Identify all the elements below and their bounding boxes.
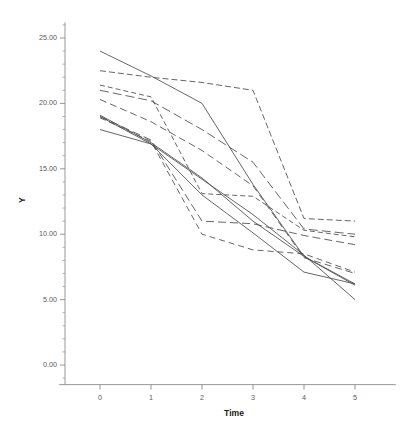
series-line-subject-5 bbox=[100, 99, 355, 273]
y-axis-title: Y bbox=[17, 197, 27, 203]
series-line-subject-4 bbox=[100, 90, 355, 234]
y-tick-label: 25.00 bbox=[39, 33, 57, 42]
x-tick-label: 5 bbox=[353, 393, 357, 402]
y-tick-label: 5.00 bbox=[43, 295, 57, 304]
spaghetti-plot-svg: 0.005.0010.0015.0020.0025.00012345 Time … bbox=[0, 0, 414, 433]
x-axis-title: Time bbox=[224, 408, 244, 418]
x-tick-label: 0 bbox=[98, 393, 102, 402]
axes-group bbox=[59, 22, 396, 384]
data-series-group bbox=[100, 51, 355, 300]
y-tick-label: 0.00 bbox=[43, 360, 57, 369]
x-tick-label: 2 bbox=[200, 393, 204, 402]
x-tick-label: 4 bbox=[302, 393, 306, 402]
series-line-subject-10 bbox=[100, 130, 355, 300]
y-tick-label: 15.00 bbox=[39, 164, 57, 173]
x-tick-label: 1 bbox=[149, 393, 153, 402]
ticks-group bbox=[60, 25, 355, 390]
tick-labels-group: 0.005.0010.0015.0020.0025.00012345 bbox=[39, 33, 357, 402]
y-tick-label: 10.00 bbox=[39, 229, 57, 238]
series-line-subject-2 bbox=[100, 71, 355, 221]
chart-container: 0.005.0010.0015.0020.0025.00012345 Time … bbox=[0, 0, 414, 433]
x-tick-label: 3 bbox=[251, 393, 255, 402]
y-tick-label: 20.00 bbox=[39, 98, 57, 107]
